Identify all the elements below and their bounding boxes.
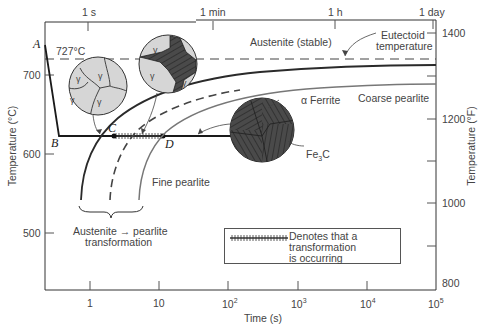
right-tick-label: 1000 (442, 197, 465, 209)
tick-base: 1 (87, 297, 93, 309)
bottom-tick-label: 103 (291, 295, 307, 310)
eutectoid-label-line2: temperature (376, 40, 433, 52)
arrow-heads (96, 50, 348, 134)
fe3c-text-end: C (322, 148, 330, 160)
legend-line1: Denotes that a transformation (289, 231, 400, 253)
right-tick-label: 1400 (442, 27, 465, 39)
y-axis-right-title: Temperature (°F) (465, 101, 477, 191)
gamma-label: γ (76, 73, 81, 85)
bottom-tick-label: 10 (153, 297, 165, 309)
tick-base: 10 (153, 297, 165, 309)
partial-pearlite-microstructure (139, 35, 197, 96)
tick-exponent: 4 (372, 297, 376, 304)
label-point-d: D (165, 138, 174, 150)
label-point-b: B (51, 137, 58, 149)
tick-exponent: 5 (440, 297, 444, 304)
x-axis-title: Time (s) (244, 312, 282, 324)
gamma-label: γ (70, 94, 75, 106)
pearlite-microstructure (228, 96, 298, 166)
fe3c-text: Fe (306, 148, 318, 160)
fe3c-label: Fe3C (306, 148, 330, 165)
bottom-tick-label: 105 (428, 295, 444, 310)
left-tick-label: 700 (23, 69, 41, 81)
label-point-a: A (33, 38, 40, 50)
top-tick-label: 1 min (200, 6, 226, 18)
gamma-label: γ (153, 44, 158, 56)
tick-exponent: 3 (303, 297, 307, 304)
left-tick-label: 600 (23, 148, 41, 160)
top-tick-label: 1 day (419, 6, 445, 18)
tick-base: 10 (360, 298, 372, 310)
right-tick-label: 1200 (442, 113, 465, 125)
bottom-tick-label: 1 (87, 297, 93, 309)
left-tick-label: 500 (23, 227, 41, 239)
transformation-hatch (114, 133, 164, 139)
transformation-brace (79, 206, 143, 218)
austenite-stable-label: Austenite (stable) (250, 36, 332, 48)
top-tick-label: 1 s (82, 6, 96, 18)
right-tick-label: 800 (442, 277, 460, 289)
fine-pearlite-label: Fine pearlite (152, 176, 210, 188)
gamma-label: γ (182, 77, 187, 89)
legend-box: Denotes that a transformation is occurri… (224, 228, 401, 264)
bottom-tick-label: 102 (222, 295, 238, 310)
tick-base: 10 (428, 298, 440, 310)
gamma-label: γ (98, 70, 103, 82)
eutectoid-value-label: 727°C (56, 45, 85, 57)
coarse-pearlite-label: Coarse pearlite (358, 92, 429, 104)
bottom-tick-label: 104 (360, 295, 376, 310)
y-axis-left-title: Temperature (°C) (6, 101, 18, 191)
austenite-microstructure (69, 56, 128, 118)
top-tick-label: 1 h (328, 6, 343, 18)
transformation-label-line2: transformation (85, 236, 152, 248)
tick-base: 10 (222, 298, 234, 310)
tick-exponent: 2 (234, 297, 238, 304)
alpha-ferrite-label: α Ferrite (301, 94, 340, 106)
legend-line2: is occurring (289, 253, 400, 264)
gamma-label: γ (150, 70, 155, 82)
gamma-label: γ (97, 96, 102, 108)
tick-base: 10 (291, 298, 303, 310)
legend-text: Denotes that a transformation is occurri… (289, 231, 400, 264)
label-point-c: C (108, 122, 116, 134)
bottom-ticks (90, 281, 367, 290)
hatch-legend-icon (229, 232, 289, 244)
